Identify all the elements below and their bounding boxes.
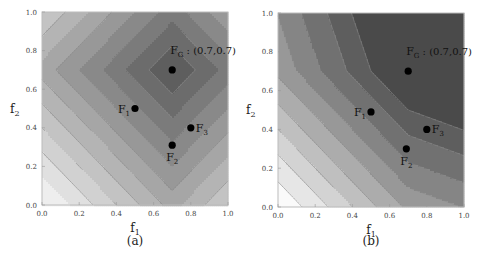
contour-band-cell: [358, 193, 360, 195]
contour-band-cell: [364, 175, 366, 177]
contour-band-cell: [90, 68, 92, 70]
contour-band-cell: [440, 83, 442, 85]
contour-band-cell: [200, 174, 202, 176]
contour-band-cell: [190, 32, 192, 34]
contour-band-cell: [324, 19, 326, 21]
contour-band-cell: [116, 64, 118, 66]
contour-band-cell: [342, 51, 344, 53]
contour-band-cell: [132, 52, 134, 54]
contour-band-cell: [220, 200, 222, 202]
contour-band-cell: [344, 101, 346, 103]
contour-band-cell: [44, 138, 46, 140]
contour-band-cell: [436, 113, 438, 115]
contour-band-cell: [340, 33, 342, 35]
contour-band-cell: [100, 184, 102, 186]
contour-band-cell: [62, 80, 64, 82]
contour-band-cell: [386, 109, 388, 111]
contour-band-cell: [362, 65, 364, 67]
contour-band-cell: [452, 77, 454, 79]
contour-band-cell: [176, 20, 178, 22]
contour-band-cell: [92, 92, 94, 94]
contour-band-cell: [398, 111, 400, 113]
contour-band-cell: [220, 130, 222, 132]
contour-band-cell: [400, 25, 402, 27]
contour-band-cell: [376, 81, 378, 83]
contour-band-cell: [142, 188, 144, 190]
contour-band-cell: [440, 195, 442, 197]
contour-band-cell: [44, 198, 46, 200]
contour-band-cell: [368, 143, 370, 145]
contour-band-cell: [412, 141, 414, 143]
contour-band-cell: [414, 173, 416, 175]
contour-band-cell: [452, 191, 454, 193]
contour-band-cell: [110, 198, 112, 200]
contour-band-cell: [456, 39, 458, 41]
contour-band-cell: [146, 144, 148, 146]
contour-band-cell: [360, 89, 362, 91]
contour-band-cell: [392, 181, 394, 183]
contour-band-cell: [366, 115, 368, 117]
contour-band-cell: [306, 197, 308, 199]
contour-band-cell: [452, 109, 454, 111]
contour-band-cell: [56, 140, 58, 142]
contour-band-cell: [444, 75, 446, 77]
contour-band-cell: [112, 182, 114, 184]
contour-band-cell: [458, 115, 460, 117]
contour-band-cell: [54, 96, 56, 98]
contour-band-cell: [86, 190, 88, 192]
contour-band-cell: [300, 77, 302, 79]
contour-band-cell: [98, 126, 100, 128]
contour-band-cell: [190, 114, 192, 116]
contour-band-cell: [352, 137, 354, 139]
contour-band-cell: [134, 48, 136, 50]
contour-band-cell: [310, 57, 312, 59]
contour-band-cell: [288, 125, 290, 127]
contour-band-cell: [164, 194, 166, 196]
contour-band-cell: [396, 175, 398, 177]
contour-band-cell: [172, 94, 174, 96]
contour-band-cell: [130, 112, 132, 114]
contour-band-cell: [218, 114, 220, 116]
contour-band-cell: [112, 48, 114, 50]
contour-band-cell: [366, 19, 368, 21]
contour-band-cell: [72, 66, 74, 68]
contour-band-cell: [432, 147, 434, 149]
point-label-suffix: : (0.7,0.7): [183, 45, 236, 56]
contour-band-cell: [94, 40, 96, 42]
contour-band-cell: [450, 197, 452, 199]
contour-band-cell: [80, 90, 82, 92]
contour-band-cell: [56, 126, 58, 128]
contour-band-cell: [308, 121, 310, 123]
contour-band-cell: [308, 167, 310, 169]
contour-band-cell: [68, 128, 70, 130]
contour-band-cell: [116, 44, 118, 46]
contour-band-cell: [290, 69, 292, 71]
contour-band-cell: [294, 71, 296, 73]
contour-band-cell: [190, 58, 192, 60]
contour-band-cell: [94, 198, 96, 200]
contour-band-cell: [312, 105, 314, 107]
contour-band-cell: [372, 23, 374, 25]
contour-band-cell: [194, 90, 196, 92]
contour-band-cell: [438, 159, 440, 161]
contour-band-cell: [372, 67, 374, 69]
contour-band-cell: [146, 66, 148, 68]
contour-band-cell: [64, 20, 66, 22]
contour-band-cell: [164, 180, 166, 182]
contour-band-cell: [184, 148, 186, 150]
contour-band-cell: [328, 29, 330, 31]
contour-band-cell: [90, 182, 92, 184]
contour-band-cell: [142, 94, 144, 96]
contour-band-cell: [368, 27, 370, 29]
contour-band-cell: [190, 24, 192, 26]
contour-band-cell: [168, 190, 170, 192]
contour-band-cell: [456, 113, 458, 115]
contour-band-cell: [56, 196, 58, 198]
contour-band-cell: [284, 133, 286, 135]
contour-band-cell: [206, 172, 208, 174]
contour-band-cell: [54, 170, 56, 172]
contour-band-cell: [460, 193, 462, 195]
contour-band-cell: [310, 173, 312, 175]
contour-band-cell: [108, 54, 110, 56]
contour-band-cell: [314, 199, 316, 201]
